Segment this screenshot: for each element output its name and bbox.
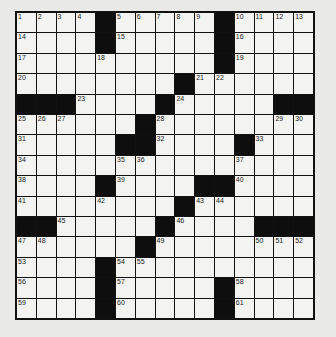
grid-cell[interactable] — [57, 33, 76, 52]
grid-cell[interactable]: 39 — [116, 176, 135, 195]
grid-cell[interactable] — [195, 278, 214, 297]
grid-cell[interactable]: 59 — [17, 299, 36, 318]
grid-cell[interactable] — [255, 278, 274, 297]
grid-cell[interactable]: 37 — [235, 156, 254, 175]
grid-cell[interactable]: 46 — [175, 217, 194, 236]
grid-cell[interactable] — [255, 258, 274, 277]
grid-cell[interactable] — [57, 156, 76, 175]
grid-cell[interactable]: 14 — [17, 33, 36, 52]
grid-cell[interactable] — [136, 217, 155, 236]
grid-cell[interactable]: 28 — [156, 115, 175, 134]
grid-cell[interactable] — [175, 278, 194, 297]
grid-cell[interactable] — [96, 156, 115, 175]
grid-cell[interactable] — [156, 258, 175, 277]
grid-cell[interactable]: 21 — [195, 74, 214, 93]
grid-cell[interactable]: 31 — [17, 135, 36, 154]
grid-cell[interactable]: 9 — [195, 13, 214, 32]
grid-cell[interactable] — [76, 74, 95, 93]
grid-cell[interactable]: 15 — [116, 33, 135, 52]
grid-cell[interactable] — [57, 54, 76, 73]
grid-cell[interactable] — [57, 258, 76, 277]
grid-cell[interactable] — [57, 74, 76, 93]
grid-cell[interactable] — [76, 33, 95, 52]
grid-cell[interactable] — [136, 278, 155, 297]
grid-cell[interactable]: 43 — [195, 197, 214, 216]
grid-cell[interactable]: 55 — [136, 258, 155, 277]
grid-cell[interactable] — [136, 95, 155, 114]
grid-cell[interactable] — [57, 278, 76, 297]
grid-cell[interactable]: 6 — [136, 13, 155, 32]
grid-cell[interactable] — [195, 54, 214, 73]
grid-cell[interactable] — [294, 33, 313, 52]
grid-cell[interactable] — [215, 135, 234, 154]
grid-cell[interactable] — [195, 258, 214, 277]
grid-cell[interactable] — [175, 33, 194, 52]
grid-cell[interactable] — [116, 197, 135, 216]
grid-cell[interactable] — [96, 115, 115, 134]
grid-cell[interactable] — [37, 135, 56, 154]
grid-cell[interactable] — [255, 95, 274, 114]
grid-cell[interactable]: 32 — [156, 135, 175, 154]
grid-cell[interactable]: 44 — [215, 197, 234, 216]
grid-cell[interactable] — [274, 278, 293, 297]
grid-cell[interactable]: 30 — [294, 115, 313, 134]
grid-cell[interactable] — [175, 156, 194, 175]
grid-cell[interactable]: 45 — [57, 217, 76, 236]
grid-cell[interactable] — [255, 74, 274, 93]
grid-cell[interactable] — [116, 54, 135, 73]
grid-cell[interactable]: 23 — [76, 95, 95, 114]
grid-cell[interactable] — [195, 115, 214, 134]
grid-cell[interactable]: 20 — [17, 74, 36, 93]
grid-cell[interactable]: 2 — [37, 13, 56, 32]
grid-cell[interactable] — [235, 74, 254, 93]
grid-cell[interactable] — [156, 197, 175, 216]
grid-cell[interactable] — [235, 258, 254, 277]
grid-cell[interactable] — [76, 217, 95, 236]
grid-cell[interactable] — [255, 115, 274, 134]
grid-cell[interactable]: 40 — [235, 176, 254, 195]
grid-cell[interactable] — [235, 217, 254, 236]
grid-cell[interactable] — [76, 237, 95, 256]
grid-cell[interactable] — [116, 74, 135, 93]
grid-cell[interactable]: 36 — [136, 156, 155, 175]
grid-cell[interactable] — [294, 74, 313, 93]
grid-cell[interactable]: 8 — [175, 13, 194, 32]
grid-cell[interactable] — [274, 156, 293, 175]
grid-cell[interactable]: 49 — [156, 237, 175, 256]
grid-cell[interactable] — [57, 237, 76, 256]
grid-cell[interactable] — [294, 176, 313, 195]
grid-cell[interactable]: 25 — [17, 115, 36, 134]
grid-cell[interactable] — [195, 299, 214, 318]
grid-cell[interactable] — [255, 176, 274, 195]
grid-cell[interactable] — [195, 95, 214, 114]
grid-cell[interactable]: 17 — [17, 54, 36, 73]
grid-cell[interactable]: 61 — [235, 299, 254, 318]
grid-cell[interactable] — [136, 299, 155, 318]
grid-cell[interactable] — [156, 33, 175, 52]
grid-cell[interactable] — [175, 176, 194, 195]
grid-cell[interactable] — [136, 33, 155, 52]
grid-cell[interactable] — [175, 237, 194, 256]
grid-cell[interactable] — [294, 278, 313, 297]
grid-cell[interactable]: 51 — [274, 237, 293, 256]
grid-cell[interactable]: 3 — [57, 13, 76, 32]
grid-cell[interactable] — [37, 258, 56, 277]
grid-cell[interactable] — [156, 299, 175, 318]
grid-cell[interactable]: 48 — [37, 237, 56, 256]
grid-cell[interactable] — [116, 217, 135, 236]
grid-cell[interactable] — [195, 237, 214, 256]
grid-cell[interactable] — [76, 258, 95, 277]
grid-cell[interactable]: 4 — [76, 13, 95, 32]
grid-cell[interactable] — [136, 197, 155, 216]
grid-cell[interactable] — [76, 156, 95, 175]
grid-cell[interactable] — [116, 95, 135, 114]
grid-cell[interactable] — [195, 33, 214, 52]
grid-cell[interactable] — [57, 135, 76, 154]
grid-cell[interactable]: 24 — [175, 95, 194, 114]
grid-cell[interactable] — [37, 278, 56, 297]
grid-cell[interactable] — [37, 299, 56, 318]
grid-cell[interactable] — [96, 135, 115, 154]
grid-cell[interactable] — [215, 115, 234, 134]
grid-cell[interactable] — [156, 176, 175, 195]
grid-cell[interactable] — [57, 299, 76, 318]
